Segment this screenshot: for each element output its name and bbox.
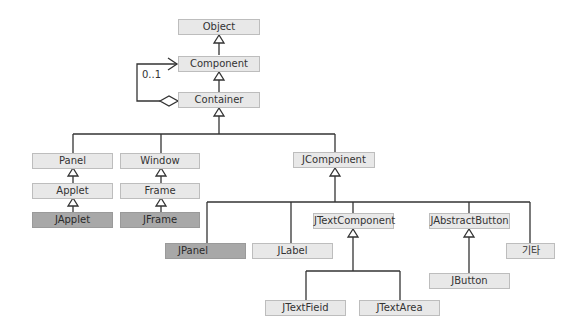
class-jabstractbutton: JAbstractButton xyxy=(429,213,510,229)
class-applet: Applet xyxy=(32,183,113,199)
class-japplet: JApplet xyxy=(32,212,113,228)
class-jbutton: JButton xyxy=(429,273,510,289)
class-jcomponent: JCompoinent xyxy=(293,152,375,168)
class-component: Component xyxy=(178,56,260,72)
class-jlabel: JLabel xyxy=(252,243,333,259)
class-jframe: JFrame xyxy=(120,212,200,228)
multiplicity-label: 0..1 xyxy=(142,69,161,80)
class-jtextarea: JTextArea xyxy=(359,300,440,316)
class-window: Window xyxy=(120,153,200,169)
class-container: Container xyxy=(178,92,260,108)
class-frame: Frame xyxy=(120,183,200,199)
class-etc: 기타 xyxy=(506,243,555,259)
class-jtextcomponent: JTextComponent xyxy=(313,213,394,229)
class-jpanel: JPanel xyxy=(165,243,246,259)
class-object: Object xyxy=(178,19,260,35)
class-hierarchy-diagram: 0..1 Object Component Container Panel Wi… xyxy=(0,0,586,333)
class-panel: Panel xyxy=(32,153,113,169)
class-jtextfield: JTextFieid xyxy=(265,300,346,316)
